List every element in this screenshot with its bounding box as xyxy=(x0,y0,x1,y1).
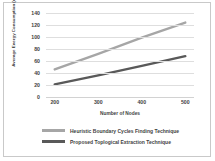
y-tick-label: 0 xyxy=(18,94,40,100)
y-tick-label: 40 xyxy=(18,70,40,76)
series-line xyxy=(55,23,186,70)
y-tick-label: 140 xyxy=(18,10,40,16)
gridline xyxy=(46,61,194,62)
legend-label: Heuristic Boundary Cycles Finding Techni… xyxy=(70,128,179,134)
plot-area: 200300400500 xyxy=(46,13,194,97)
x-tick-label: 200 xyxy=(50,99,59,105)
gridline xyxy=(46,73,194,74)
x-tick-label: 500 xyxy=(181,99,190,105)
chart-frame: Average Energy Consumption (mJ) 02040608… xyxy=(3,2,211,157)
gridline xyxy=(46,85,194,86)
legend-item[interactable]: Heuristic Boundary Cycles Finding Techni… xyxy=(4,125,210,136)
legend-item[interactable]: Proposed Toplogical Extraction Technique xyxy=(4,136,210,147)
gridline xyxy=(46,25,194,26)
y-tick-label: 60 xyxy=(18,58,40,64)
legend-swatch-icon xyxy=(42,129,65,131)
line-chart: Average Energy Consumption (mJ) 02040608… xyxy=(4,3,210,156)
gridline xyxy=(46,97,194,98)
gridline xyxy=(46,13,194,14)
gridline xyxy=(46,49,194,50)
legend-swatch-icon xyxy=(42,140,65,142)
legend-label: Proposed Toplogical Extraction Technique xyxy=(70,139,171,145)
y-tick-label: 20 xyxy=(18,82,40,88)
chart-legend: Heuristic Boundary Cycles Finding Techni… xyxy=(4,125,210,147)
x-axis-title: Number of Nodes xyxy=(46,111,194,116)
y-tick-label: 80 xyxy=(18,46,40,52)
y-tick-label: 100 xyxy=(18,34,40,40)
gridline xyxy=(46,37,194,38)
y-tick-label: 120 xyxy=(18,22,40,28)
x-tick-label: 400 xyxy=(137,99,146,105)
x-tick-label: 300 xyxy=(94,99,103,105)
